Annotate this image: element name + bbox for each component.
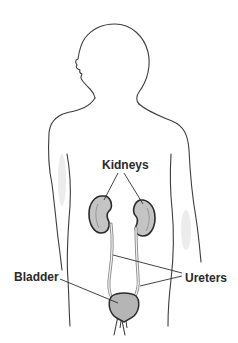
ureters	[109, 224, 139, 298]
label-kidneys: Kidneys	[102, 158, 149, 172]
label-bladder: Bladder	[14, 270, 59, 284]
left-kidney	[89, 196, 111, 233]
bladder	[109, 293, 139, 328]
label-ureters: Ureters	[185, 271, 227, 285]
leader-lines	[60, 173, 182, 303]
urinary-system-diagram: Kidneys Bladder Ureters	[0, 0, 238, 343]
body-outline	[48, 24, 201, 335]
